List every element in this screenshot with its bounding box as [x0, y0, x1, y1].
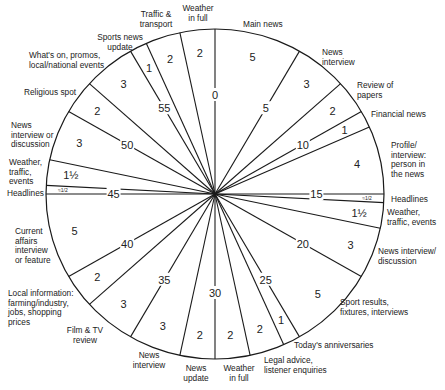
label-review-papers: Review of papers	[357, 81, 393, 100]
label-weather-full-bottom: Weather in full	[217, 364, 261, 383]
label-news-interview-2: News interview	[126, 351, 172, 370]
label-news-interview-or-discussion: News interview or discussion	[11, 121, 53, 150]
minute-marker: 45	[107, 188, 119, 200]
segment-duration: 5	[250, 51, 256, 63]
segment-duration: 2	[330, 105, 336, 117]
segment-duration: 2	[167, 53, 173, 65]
label-legal-advice: Legal advice, listener enquiries	[264, 356, 327, 375]
segment-duration: 2	[257, 323, 263, 335]
label-profile: Profile/ interview: person in the news	[391, 141, 426, 179]
label-traffic-transport: Traffic & transport	[131, 10, 181, 29]
segment-divider	[215, 84, 341, 194]
label-news-interview-1: News interview	[322, 48, 355, 67]
segment-divider	[215, 127, 369, 194]
segment-duration: 1	[341, 124, 347, 136]
segment-duration: 5	[315, 288, 321, 300]
minute-marker: 50	[121, 139, 133, 151]
segment-divider	[131, 194, 216, 337]
segment-duration: 2	[94, 105, 100, 117]
segment-divider	[146, 43, 215, 194]
segment-duration: 3	[120, 298, 126, 310]
label-financial-news: Financial news	[371, 110, 426, 120]
label-headlines-right: Headlines	[391, 195, 428, 205]
segment-divider	[215, 194, 384, 203]
segment-duration: 2	[227, 329, 233, 341]
label-headlines-left: Headlines	[7, 189, 44, 199]
minute-marker: 30	[209, 287, 221, 299]
label-weather-traffic-right: Weather, traffic, events	[387, 208, 436, 227]
segment-duration: 1½	[63, 169, 78, 181]
label-religious-spot: Religious spot	[24, 88, 76, 98]
label-sport-results: Sport results, fixtures, interviews	[340, 298, 408, 317]
minute-marker: 0	[212, 89, 218, 101]
minute-marker: 10	[297, 139, 309, 151]
label-weather-traffic-left: Weather, traffic, events	[9, 158, 42, 187]
label-main-news: Main news	[243, 20, 283, 30]
label-sports-news-update: Sports news update	[90, 33, 150, 52]
segment-duration: 2	[197, 47, 203, 59]
segment-duration: 1½	[351, 207, 366, 219]
segment-duration: 3	[120, 78, 126, 90]
minute-marker: 25	[260, 274, 272, 286]
label-news-update: News update	[179, 364, 213, 383]
label-weather-full-top: Weather in full	[176, 4, 220, 23]
segment-divider	[46, 185, 215, 194]
segment-duration: 2	[197, 329, 203, 341]
segment-duration: 5	[72, 225, 78, 237]
segment-divider	[131, 51, 216, 194]
minute-marker: 5	[263, 102, 269, 114]
segment-duration: 3	[348, 239, 354, 251]
segment-divider	[215, 112, 361, 195]
segment-divider	[89, 84, 215, 194]
segment-duration: 1	[146, 62, 152, 74]
segment-duration: ≈1/2	[362, 195, 372, 201]
segment-duration: 3	[160, 320, 166, 332]
label-whats-on: What's on, promos, local/national events	[29, 51, 104, 70]
label-film-tv: Film & TV review	[62, 326, 108, 345]
segment-duration: 1	[278, 314, 284, 326]
segment-duration: ≈1/2	[58, 187, 68, 193]
segment-divider	[215, 194, 284, 345]
segment-duration: 4	[354, 158, 360, 170]
label-news-interview-discussion: News interview/ discussion	[378, 247, 436, 266]
segment-divider	[69, 194, 215, 277]
segment-divider	[69, 112, 215, 195]
segment-divider	[215, 194, 300, 337]
label-anniversaries: Today's anniversaries	[294, 341, 374, 351]
minute-marker: 40	[121, 238, 133, 250]
segment-divider	[215, 51, 300, 194]
minute-marker: 35	[158, 274, 170, 286]
segment-divider	[215, 194, 361, 277]
segment-duration: 3	[303, 78, 309, 90]
segment-dividers	[46, 29, 384, 359]
segment-divider	[89, 194, 215, 304]
minute-marker: 20	[297, 238, 309, 250]
label-local-info: Local information: farming/industry, job…	[8, 289, 74, 327]
label-current-affairs: Current affairs interview or feature	[15, 227, 51, 265]
minute-marker: 55	[158, 102, 170, 114]
segment-duration: 3	[76, 137, 82, 149]
minute-marker: 15	[310, 188, 322, 200]
segment-duration: 2	[94, 271, 100, 283]
